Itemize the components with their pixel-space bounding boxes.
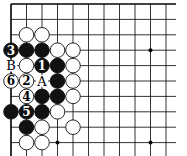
white-stone — [66, 120, 81, 135]
white-stone — [50, 105, 65, 120]
stones-layer: 316245 — [4, 28, 81, 150]
move-number: 5 — [22, 105, 30, 119]
black-stone: 3 — [4, 43, 19, 58]
black-stone — [35, 89, 50, 104]
black-stone — [50, 89, 65, 104]
white-stone — [66, 74, 81, 89]
black-stone — [35, 105, 50, 120]
white-stone — [66, 43, 81, 58]
star-point — [149, 48, 153, 52]
white-stone: 4 — [19, 89, 34, 104]
white-stone — [19, 58, 34, 73]
white-stone — [35, 120, 50, 135]
move-number: 4 — [22, 90, 30, 104]
board-grid-lines — [11, 4, 176, 156]
white-stone — [19, 28, 34, 43]
white-stone — [66, 89, 81, 104]
white-stone: 2 — [19, 74, 34, 89]
star-point — [56, 141, 60, 145]
black-stone — [50, 74, 65, 89]
black-stone: 1 — [35, 58, 50, 73]
black-stone — [50, 58, 65, 73]
move-number: 2 — [22, 74, 30, 88]
black-stone — [35, 43, 50, 58]
move-number: 1 — [38, 59, 46, 73]
white-stone: 6 — [4, 74, 19, 89]
point-label-b: B — [6, 58, 16, 73]
move-number: 3 — [7, 44, 15, 58]
white-stone — [19, 135, 34, 150]
move-number: 6 — [7, 74, 15, 88]
black-stone: 5 — [19, 105, 34, 120]
black-stone — [19, 43, 34, 58]
black-stone — [19, 120, 34, 135]
white-stone — [50, 43, 65, 58]
black-stone — [4, 105, 19, 120]
point-label-a: A — [36, 74, 47, 89]
white-stone — [35, 28, 50, 43]
white-stone — [66, 58, 81, 73]
white-stone — [35, 135, 50, 150]
go-board-diagram: BA 316245 — [0, 0, 187, 156]
star-point — [149, 141, 153, 145]
